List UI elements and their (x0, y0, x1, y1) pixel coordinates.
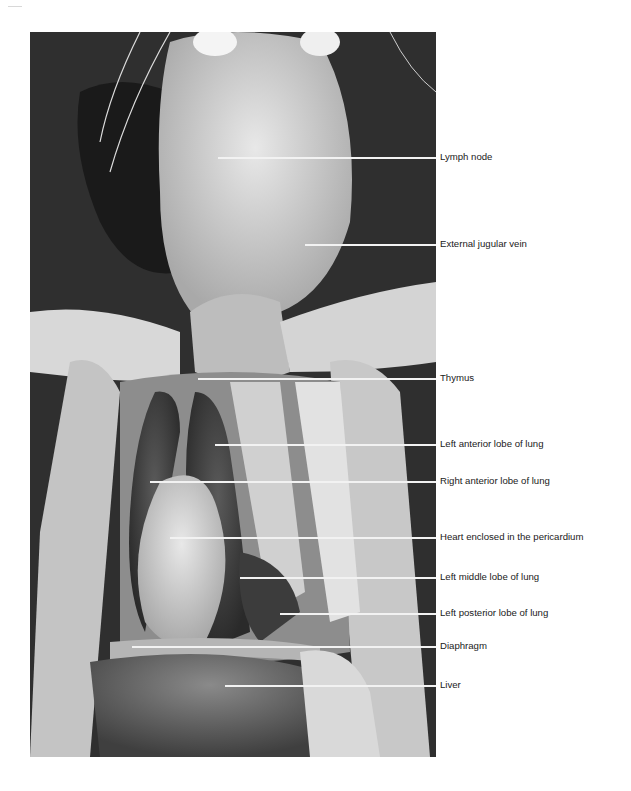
leader-line-left-middle-lobe (240, 577, 436, 579)
leader-line-diaphragm (132, 646, 436, 648)
leader-line-liver (225, 685, 436, 687)
label-heart-pericardium: Heart enclosed in the pericardium (440, 531, 583, 543)
page-corner-mark (8, 0, 22, 7)
label-diaphragm: Diaphragm (440, 640, 487, 652)
label-liver: Liver (440, 679, 461, 691)
label-external-jugular-vein: External jugular vein (440, 238, 527, 250)
leader-line-heart (170, 537, 436, 539)
label-left-anterior-lobe: Left anterior lobe of lung (440, 438, 543, 450)
specimen-illustration (30, 32, 436, 757)
label-thymus: Thymus (440, 372, 474, 384)
label-right-anterior-lobe: Right anterior lobe of lung (440, 475, 550, 487)
leader-line-lymph-node (218, 157, 436, 159)
leader-line-external-jugular-vein (305, 244, 436, 246)
dissection-photograph (30, 32, 436, 757)
leader-line-right-anterior-lobe (150, 481, 436, 483)
leader-line-left-posterior-lobe (280, 613, 436, 615)
leader-line-left-anterior-lobe (215, 444, 436, 446)
label-left-middle-lobe: Left middle lobe of lung (440, 571, 539, 583)
label-left-posterior-lobe: Left posterior lobe of lung (440, 607, 548, 619)
leader-line-thymus (198, 378, 436, 380)
label-lymph-node: Lymph node (440, 151, 492, 163)
